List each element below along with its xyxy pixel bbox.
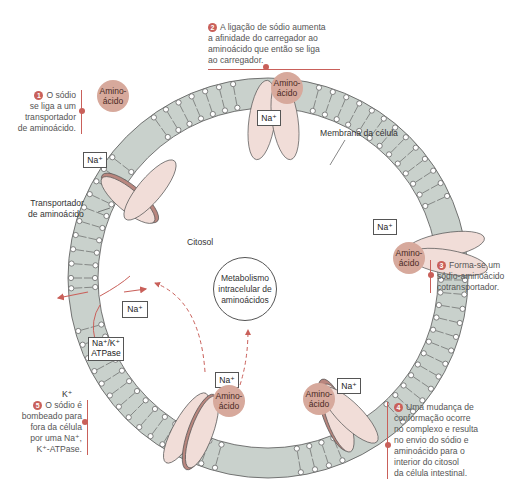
step-1-note: 1O sódio se liga a um transportador de a… [14, 90, 82, 134]
amino-acid-1-line-1: Amino- [100, 86, 127, 96]
sodium-ion-box-5: Na⁺ [122, 301, 148, 318]
amino-acid-5: Amino- ácido [213, 385, 245, 417]
step-5-line-5: K⁺-ATPase. [37, 444, 82, 454]
step-2-number: 2 [208, 23, 217, 32]
step-4-line-5: aminoácido para o [394, 446, 465, 456]
metabolism-circle: Metabolismo intracelular de aminoácidos [213, 257, 277, 321]
step-1-line-2: se liga a um [30, 101, 76, 111]
amino-acid-5-line-2: ácido [219, 401, 239, 411]
atpase-line-1: Na⁺/K⁺ [92, 338, 120, 348]
step-1-line-3: transportador [25, 112, 76, 122]
step-4-line-4: no envio do sódio e [394, 435, 469, 445]
potassium-label: K⁺ [62, 389, 72, 400]
step-1-number: 1 [34, 91, 43, 100]
amino-acid-1-line-2: ácido [103, 96, 123, 106]
membrane-label: Membrana da célula [320, 128, 398, 139]
step-2-line-2: a afinidade do carregador ao [208, 33, 318, 43]
step-4-note: 4Uma mudança de conformação ocorre no co… [387, 402, 486, 479]
metabolism-line-2: intracelular de [218, 284, 271, 294]
step-4-number: 4 [394, 403, 403, 412]
amino-acid-2: Amino- ácido [271, 72, 303, 104]
amino-acid-4-line-2: ácido [309, 399, 329, 409]
sodium-ion-box-4: Na⁺ [337, 378, 361, 394]
step-3-line-1: Forma-se um [449, 260, 500, 270]
step-4-line-2: conformação ocorre [394, 413, 470, 423]
step-5-note: 5O sódio é bombeado para fora da célula … [14, 400, 88, 455]
transporter-label-line-1: Transportador [30, 198, 84, 208]
amino-acid-4-line-1: Amino- [306, 389, 333, 399]
na-k-atpase-box: Na⁺/K⁺ ATPase [88, 337, 124, 361]
transporter-label: Transportador de aminoácido [28, 198, 84, 220]
sodium-recycle-arrow [155, 283, 205, 372]
atpase-line-2: ATPase [91, 348, 121, 358]
step-1-line-1: O sódio [46, 90, 76, 100]
step-5-line-3: fora da célula [30, 422, 82, 432]
step-5-line-1: O sódio é [45, 400, 82, 410]
sodium-ion-box-1: Na⁺ [83, 152, 107, 168]
step-5-line-2: bombeado para [22, 411, 82, 421]
step-4-line-3: no complexo e resulta [394, 424, 478, 434]
step-4-line-6: interior do citosol [394, 457, 459, 467]
step-2-line-3: aminoácido que então se liga [208, 44, 320, 54]
membrane-leader-line [330, 140, 345, 165]
sodium-ion-box-3: Na⁺ [373, 219, 397, 235]
step-3-note: 3Forma-se um sódio-aminoácido cotranspor… [430, 260, 515, 293]
amino-acid-2-line-1: Amino- [274, 78, 301, 88]
step-3-line-3: cotransportador. [437, 282, 499, 292]
metabolism-line-3: aminoácidos [221, 295, 269, 305]
amino-acid-2-line-2: ácido [277, 88, 297, 98]
cytosol-label: Citosol [187, 237, 213, 248]
step-2-line-1: A ligação de sódio aumenta [220, 22, 326, 32]
step-3-number: 3 [437, 261, 446, 270]
step-5-number: 5 [33, 401, 42, 410]
step-2-note: 2A ligação de sódio aumenta a afinidade … [208, 22, 340, 70]
amino-acid-3: Amino- ácido [393, 242, 425, 274]
amino-acid-3-line-1: Amino- [396, 248, 423, 258]
step-4-line-1: Uma mudança de [406, 402, 474, 412]
step-2-line-4: ao carregador. [208, 55, 263, 65]
step-1-line-4: de aminoácido. [18, 123, 76, 133]
amino-acid-4: Amino- ácido [303, 383, 335, 415]
step-3-line-2: sódio-aminoácido [437, 271, 504, 281]
amino-acid-metabolism-arrow [240, 330, 248, 385]
amino-acid-1: Amino- ácido [97, 80, 129, 112]
sodium-ion-box-2: Na⁺ [257, 110, 281, 126]
metabolism-line-1: Metabolismo [221, 273, 269, 283]
step-4-line-7: da célula intestinal. [394, 468, 467, 478]
amino-acid-3-line-2: ácido [399, 258, 419, 268]
step-5-line-4: por uma Na⁺, [30, 433, 82, 443]
amino-acid-5-line-1: Amino- [216, 391, 243, 401]
transporter-label-line-2: de aminoácido [28, 209, 84, 219]
